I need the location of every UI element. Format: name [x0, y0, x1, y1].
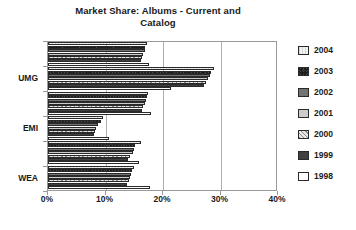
swatch-2002-icon — [298, 88, 309, 97]
x-axis-label-30: 30% — [211, 194, 228, 204]
swatch-2004-icon — [298, 46, 309, 55]
x-axis-label-40: 40% — [268, 194, 285, 204]
bar-1998[interactable] — [48, 137, 109, 140]
x-axis-tick-0 — [47, 191, 48, 195]
swatch-2003-icon — [298, 67, 309, 76]
swatch-1999-icon — [298, 151, 309, 160]
bar-1998[interactable] — [48, 87, 171, 90]
bar-1998[interactable] — [48, 63, 149, 66]
chart-container: Market Share: Albums - Current and Catal… — [0, 0, 356, 230]
y-axis-labels: .UMG.EMI.WEA — [0, 41, 44, 191]
x-axis-tick-40 — [277, 191, 278, 195]
bar-1998[interactable] — [48, 112, 151, 115]
x-axis-label-10: 10% — [96, 194, 113, 204]
x-axis-tick-10 — [105, 191, 106, 195]
legend-item-2000[interactable]: 2000 — [298, 124, 354, 145]
legend: 2004200320022001200019991998 — [298, 40, 354, 187]
chart-title-line-2: Catalog — [38, 17, 278, 29]
swatch-1998-icon — [298, 172, 309, 181]
x-axis-labels: 0%10%20%30%40% — [47, 194, 277, 208]
legend-item-2001[interactable]: 2001 — [298, 103, 354, 124]
legend-item-1999[interactable]: 1999 — [298, 145, 354, 166]
y-axis-label-umg: UMG — [0, 66, 44, 91]
legend-label-2002: 2002 — [314, 88, 333, 97]
legend-item-1998[interactable]: 1998 — [298, 166, 354, 187]
legend-label-1999: 1999 — [314, 151, 333, 160]
bar-group — [48, 92, 276, 116]
bar-1998[interactable] — [48, 186, 150, 189]
legend-label-2004: 2004 — [314, 46, 333, 55]
x-axis-label-0: 0% — [41, 194, 53, 204]
legend-label-1998: 1998 — [314, 172, 333, 181]
bar-groups — [48, 42, 276, 190]
legend-item-2003[interactable]: 2003 — [298, 61, 354, 82]
bar-group — [48, 141, 276, 165]
legend-label-2003: 2003 — [314, 67, 333, 76]
bar-group — [48, 67, 276, 91]
chart-title-line-1: Market Share: Albums - Current and — [38, 5, 278, 17]
bar-group — [48, 42, 276, 66]
legend-label-2000: 2000 — [314, 130, 333, 139]
y-axis-label-emi: EMI — [0, 116, 44, 141]
y-axis-label-wea: WEA — [0, 166, 44, 191]
legend-item-2004[interactable]: 2004 — [298, 40, 354, 61]
x-axis-label-20: 20% — [153, 194, 170, 204]
bar-group — [48, 116, 276, 140]
chart-title: Market Share: Albums - Current and Catal… — [38, 5, 278, 29]
bar-group — [48, 166, 276, 190]
plot-area — [47, 41, 277, 191]
legend-label-2001: 2001 — [314, 109, 333, 118]
x-axis-tick-20 — [162, 191, 163, 195]
legend-item-2002[interactable]: 2002 — [298, 82, 354, 103]
swatch-2000-icon — [298, 130, 309, 139]
x-axis-tick-30 — [220, 191, 221, 195]
swatch-2001-icon — [298, 109, 309, 118]
bar-1998[interactable] — [48, 161, 139, 164]
